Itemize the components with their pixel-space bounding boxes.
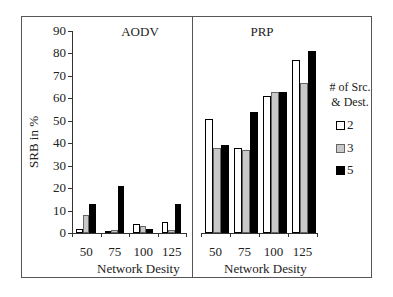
chart-frame — [21, 16, 372, 278]
x-tick-label: 75 — [230, 245, 260, 258]
bar-prp-100-series-5 — [279, 92, 287, 233]
y-tick-label: 40 — [42, 136, 66, 149]
x-tick-mark — [201, 233, 202, 237]
x-tick-label: 100 — [259, 245, 289, 258]
x-tick-mark — [317, 233, 318, 237]
bar-prp-125-series-2 — [292, 60, 300, 233]
bar-prp-125-series-5 — [308, 51, 316, 233]
bar-prp-75-series-5 — [250, 112, 258, 233]
legend-title-line2: & Dest. — [322, 95, 378, 110]
bar-aodv-100-series-5 — [146, 229, 153, 233]
legend-swatch-3 — [336, 144, 345, 153]
y-tick-label: 70 — [42, 69, 66, 82]
legend-item-5: 5 — [336, 162, 354, 178]
y-tick-label: 80 — [42, 46, 66, 59]
panel-title-prp: PRP — [232, 24, 292, 40]
legend-label-2: 2 — [347, 117, 354, 133]
legend-label-3: 3 — [347, 140, 354, 156]
x-tick-label: 75 — [100, 245, 130, 258]
bar-prp-50-series-2 — [205, 119, 213, 233]
panel-divider — [192, 16, 193, 278]
x-tick-mark — [186, 233, 187, 237]
x-tick-label: 125 — [288, 245, 318, 258]
x-tick-label: 50 — [201, 245, 231, 258]
legend-swatch-2 — [336, 121, 345, 130]
x-tick-mark — [129, 233, 130, 237]
y-tick-label: 0 — [42, 226, 66, 239]
x-tick-mark — [158, 233, 159, 237]
x-tick-label: 125 — [157, 245, 187, 258]
y-tick-label: 30 — [42, 159, 66, 172]
legend-label-5: 5 — [347, 162, 354, 178]
x-tick-mark — [101, 233, 102, 237]
x-axis-label-prp: Network Desity — [224, 261, 307, 277]
bar-prp-50-series-5 — [221, 145, 229, 233]
bar-aodv-125-series-5 — [175, 204, 182, 233]
bar-aodv-75-series-5 — [118, 186, 125, 233]
y-tick-label: 20 — [42, 181, 66, 194]
bar-prp-50-series-3 — [213, 148, 221, 233]
legend-title-line1: # of Src. — [322, 80, 378, 95]
y-axis-line — [72, 31, 73, 234]
legend-title: # of Src. & Dest. — [322, 80, 378, 110]
bar-aodv-50-series-5 — [89, 204, 96, 233]
y-axis-label: SRB in % — [26, 116, 42, 168]
x-tick-label: 50 — [71, 245, 101, 258]
bar-prp-100-series-2 — [263, 96, 271, 233]
y-tick-label: 50 — [42, 114, 66, 127]
panel-title-aodv: AODV — [100, 24, 180, 40]
x-tick-mark — [230, 233, 231, 237]
bar-prp-100-series-3 — [271, 92, 279, 233]
legend-swatch-5 — [336, 166, 345, 175]
bar-prp-75-series-2 — [234, 148, 242, 233]
x-tick-label: 100 — [128, 245, 158, 258]
y-tick-label: 10 — [42, 204, 66, 217]
x-tick-mark — [259, 233, 260, 237]
x-tick-mark — [72, 233, 73, 237]
y-tick-label: 60 — [42, 91, 66, 104]
bar-prp-125-series-3 — [300, 83, 308, 233]
legend-item-2: 2 — [336, 117, 354, 133]
x-tick-mark — [288, 233, 289, 237]
bar-prp-75-series-3 — [242, 150, 250, 233]
legend-item-3: 3 — [336, 140, 354, 156]
y-tick-label: 90 — [42, 24, 66, 37]
x-axis-label-aodv: Network Desity — [97, 261, 180, 277]
